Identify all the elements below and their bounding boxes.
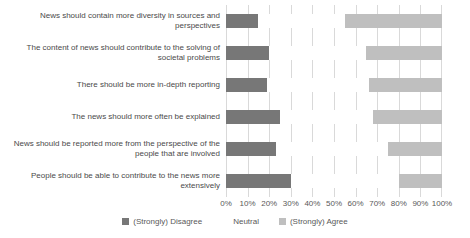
x-axis-row: 0%10%20%30%40%50%60%70%80%90%100% — [0, 197, 470, 210]
agree-swatch-icon — [279, 218, 286, 225]
category-label: News should be reported more from the pe… — [0, 133, 220, 165]
x-tick-label: 10% — [240, 199, 256, 208]
x-tick-label: 90% — [412, 199, 428, 208]
bar--strongly-agree — [373, 110, 442, 124]
x-axis: 0%10%20%30%40%50%60%70%80%90%100% — [226, 197, 442, 210]
gridline — [248, 5, 249, 197]
gridline — [269, 5, 270, 197]
x-tick-label: 50% — [326, 199, 342, 208]
disagree-swatch-icon — [122, 218, 129, 225]
category-label: News should contain more diversity in so… — [0, 5, 220, 37]
bar--strongly-disagree — [226, 142, 276, 156]
gridline — [226, 5, 227, 197]
gridline — [399, 5, 400, 197]
bar--strongly-agree — [369, 78, 442, 92]
chart-main: News should contain more diversity in so… — [0, 5, 470, 197]
bar--strongly-disagree — [226, 46, 269, 60]
bar-neutral — [267, 78, 369, 92]
legend-label-agree: (Strongly) Agree — [290, 217, 348, 226]
bar--strongly-disagree — [226, 14, 258, 28]
x-tick-label: 70% — [369, 199, 385, 208]
x-tick-label: 0% — [220, 199, 232, 208]
legend-item-neutral: Neutral — [222, 217, 259, 226]
bar-neutral — [258, 14, 344, 28]
bar--strongly-disagree — [226, 174, 291, 188]
bar--strongly-agree — [366, 46, 442, 60]
category-label: The content of news should contribute to… — [0, 37, 220, 69]
gridline — [334, 5, 335, 197]
bar-neutral — [291, 174, 399, 188]
survey-bar-chart: News should contain more diversity in so… — [0, 0, 470, 238]
bar--strongly-disagree — [226, 78, 267, 92]
gridline — [312, 5, 313, 197]
x-tick-label: 40% — [304, 199, 320, 208]
neutral-swatch-icon — [222, 218, 229, 225]
x-tick-label: 80% — [391, 199, 407, 208]
x-tick-label: 30% — [283, 199, 299, 208]
bar-neutral — [269, 46, 366, 60]
legend-label-neutral: Neutral — [233, 217, 259, 226]
legend-item-disagree: (Strongly) Disagree — [122, 217, 202, 226]
x-tick-label: 60% — [348, 199, 364, 208]
x-tick-label: 100% — [432, 199, 452, 208]
category-label: People should be able to contribute to t… — [0, 165, 220, 197]
bar--strongly-agree — [345, 14, 442, 28]
bar-neutral — [280, 110, 373, 124]
category-label: The news should more often be explained — [0, 101, 220, 133]
bar--strongly-disagree — [226, 110, 280, 124]
legend-label-disagree: (Strongly) Disagree — [133, 217, 202, 226]
bar--strongly-agree — [388, 142, 442, 156]
bar--strongly-agree — [399, 174, 442, 188]
gridline — [441, 5, 442, 197]
x-axis-spacer — [0, 197, 226, 210]
plot-area — [226, 5, 442, 197]
category-axis: News should contain more diversity in so… — [0, 5, 226, 197]
category-label: There should be more in-depth reporting — [0, 69, 220, 101]
gridline — [356, 5, 357, 197]
bar-neutral — [276, 142, 388, 156]
legend: (Strongly) Disagree Neutral (Strongly) A… — [0, 217, 470, 226]
legend-item-agree: (Strongly) Agree — [279, 217, 348, 226]
gridline — [291, 5, 292, 197]
gridline — [377, 5, 378, 197]
x-tick-label: 20% — [261, 199, 277, 208]
gridline — [420, 5, 421, 197]
